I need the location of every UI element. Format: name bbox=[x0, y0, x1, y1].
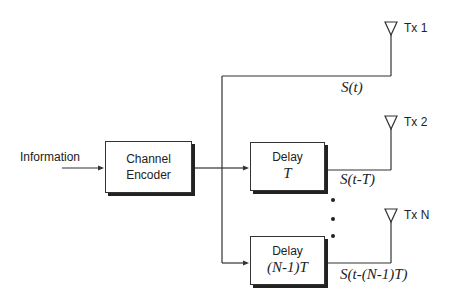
delay-block-t: Delay T bbox=[250, 142, 325, 191]
antenna-label-tx1: Tx 1 bbox=[404, 21, 427, 35]
diagram: Information Channel Encoder Delay T Dela… bbox=[0, 0, 453, 307]
channel-encoder-block: Channel Encoder bbox=[105, 141, 192, 193]
input-label: Information bbox=[20, 150, 80, 164]
signal-label-2: S(t-T) bbox=[340, 172, 375, 186]
delay-value: (N-1)T bbox=[251, 259, 324, 275]
delay-value: T bbox=[251, 165, 324, 181]
delay-label: Delay bbox=[251, 243, 324, 259]
ellipsis-dots bbox=[331, 198, 335, 238]
encoder-line1: Channel bbox=[106, 151, 191, 167]
signal-label-1: S(t) bbox=[341, 80, 363, 94]
delay-label: Delay bbox=[251, 149, 324, 165]
antenna-label-tx2: Tx 2 bbox=[404, 115, 427, 129]
antenna-label-txn: Tx N bbox=[404, 208, 429, 222]
encoder-line2: Encoder bbox=[106, 167, 191, 183]
signal-label-n: S(t-(N-1)T) bbox=[340, 267, 408, 281]
delay-block-n: Delay (N-1)T bbox=[250, 236, 325, 285]
